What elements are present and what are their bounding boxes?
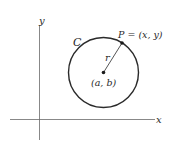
center-point	[102, 71, 106, 75]
point-p	[120, 41, 124, 45]
x-axis-label: x	[156, 114, 162, 125]
center-label: (a, b)	[91, 77, 116, 88]
circle-diagram: x y C r (a, b) P = (x, y)	[0, 0, 174, 149]
y-axis-label: y	[38, 15, 45, 26]
circle-label: C	[73, 36, 82, 49]
point-label: P = (x, y)	[117, 29, 163, 40]
